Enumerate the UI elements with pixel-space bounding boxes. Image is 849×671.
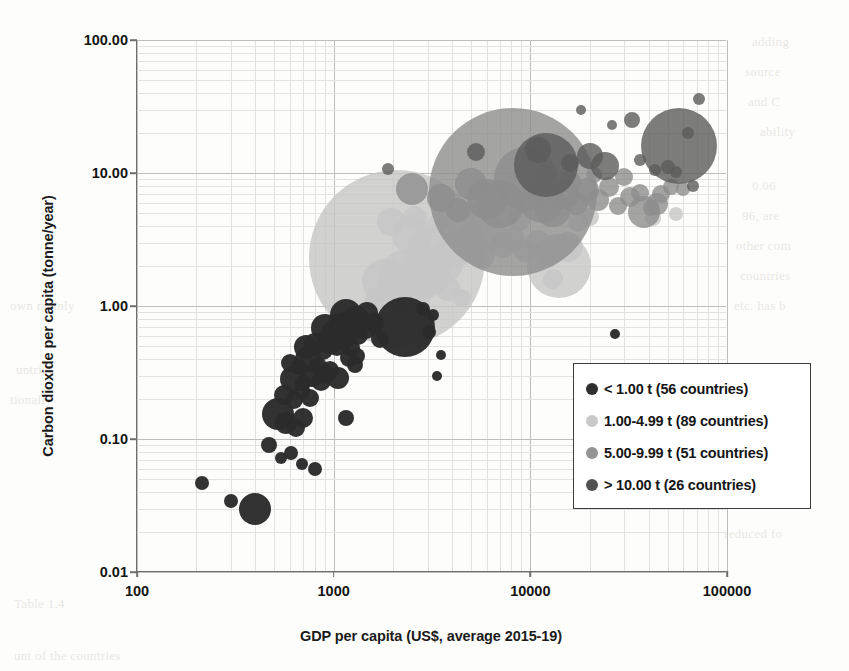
y-tick-mark bbox=[130, 39, 137, 41]
data-point-bubble bbox=[693, 93, 705, 105]
data-point-bubble bbox=[296, 458, 308, 470]
data-point-bubble bbox=[687, 180, 699, 192]
data-point-bubble bbox=[275, 452, 287, 464]
x-tick-label: 100 bbox=[125, 583, 149, 599]
data-point-bubble bbox=[543, 269, 563, 289]
data-point-bubble bbox=[561, 154, 579, 172]
data-point-bubble bbox=[422, 325, 436, 339]
data-point-bubble bbox=[467, 143, 485, 161]
data-point-bubble bbox=[624, 112, 640, 128]
chart-legend: < 1.00 t (56 countries) 1.00-4.99 t (89 … bbox=[573, 363, 811, 509]
data-point-bubble bbox=[432, 371, 442, 381]
y-tick-label: 0.10 bbox=[100, 431, 128, 447]
y-tick-label: 100.00 bbox=[84, 32, 128, 48]
x-tick-label: 1000 bbox=[318, 583, 350, 599]
legend-item: 5.00-9.99 t (51 countries) bbox=[586, 437, 802, 469]
data-point-bubble bbox=[669, 207, 683, 221]
x-tick-mark bbox=[333, 571, 335, 577]
y-tick-label: 1.00 bbox=[100, 298, 128, 314]
data-point-bubble bbox=[643, 200, 659, 216]
data-point-bubble bbox=[295, 375, 311, 391]
gridline-horizontal bbox=[137, 572, 726, 573]
data-point-bubble bbox=[577, 143, 603, 169]
data-point-bubble bbox=[455, 168, 487, 200]
data-point-bubble bbox=[576, 105, 586, 115]
y-tick-label: 10.00 bbox=[92, 165, 128, 181]
bubble-chart: Carbon dioxide per capita (tonne/year) G… bbox=[0, 0, 849, 671]
x-axis-title: GDP per capita (US$, average 2015-19) bbox=[136, 628, 726, 644]
y-axis-title: Carbon dioxide per capita (tonne/year) bbox=[40, 111, 56, 541]
data-point-bubble bbox=[607, 120, 617, 130]
data-point-bubble bbox=[321, 361, 339, 379]
data-point-bubble bbox=[291, 359, 307, 375]
data-point-bubble bbox=[453, 289, 471, 307]
legend-label: > 10.00 t (26 countries) bbox=[604, 477, 756, 493]
data-point-bubble bbox=[261, 437, 277, 453]
legend-swatch-icon bbox=[586, 383, 598, 395]
legend-swatch-icon bbox=[586, 415, 598, 427]
data-point-bubble bbox=[609, 197, 627, 215]
data-point-bubble bbox=[403, 206, 427, 230]
data-point-bubble bbox=[446, 198, 470, 222]
data-point-bubble bbox=[634, 154, 646, 166]
legend-label: < 1.00 t (56 countries) bbox=[604, 381, 748, 397]
legend-item: < 1.00 t (56 countries) bbox=[586, 373, 802, 405]
data-point-bubble bbox=[371, 330, 389, 348]
data-point-bubble bbox=[195, 476, 209, 490]
data-point-bubble bbox=[287, 419, 305, 437]
data-point-bubble bbox=[670, 166, 682, 178]
data-point-bubble bbox=[436, 350, 446, 360]
legend-swatch-icon bbox=[586, 447, 598, 459]
data-point-bubble bbox=[224, 494, 238, 508]
data-point-bubble bbox=[525, 137, 551, 163]
data-point-bubble bbox=[427, 309, 439, 321]
x-tick-mark bbox=[136, 571, 138, 577]
data-point-bubble bbox=[610, 329, 620, 339]
data-point-bubble bbox=[396, 173, 428, 205]
data-point-bubble bbox=[631, 184, 649, 202]
legend-swatch-icon bbox=[586, 479, 598, 491]
data-point-bubble bbox=[338, 410, 354, 426]
legend-item: 1.00-4.99 t (89 countries) bbox=[586, 405, 802, 437]
data-point-bubble bbox=[349, 348, 365, 364]
legend-label: 5.00-9.99 t (51 countries) bbox=[604, 445, 768, 461]
data-point-bubble bbox=[382, 163, 394, 175]
x-tick-mark bbox=[726, 571, 728, 577]
data-point-bubble bbox=[308, 462, 322, 476]
x-tick-label: 100000 bbox=[703, 583, 751, 599]
data-point-bubble bbox=[682, 127, 694, 139]
data-point-bubble bbox=[649, 164, 661, 176]
legend-label: 1.00-4.99 t (89 countries) bbox=[604, 413, 768, 429]
x-tick-mark bbox=[530, 571, 532, 577]
y-tick-mark bbox=[130, 438, 137, 440]
legend-item: > 10.00 t (26 countries) bbox=[586, 469, 802, 501]
y-tick-label: 0.01 bbox=[100, 564, 128, 580]
data-point-bubble bbox=[377, 208, 405, 236]
y-tick-mark bbox=[130, 305, 137, 307]
x-tick-label: 10000 bbox=[510, 583, 550, 599]
y-tick-mark bbox=[130, 172, 137, 174]
data-point-bubble bbox=[239, 493, 271, 525]
